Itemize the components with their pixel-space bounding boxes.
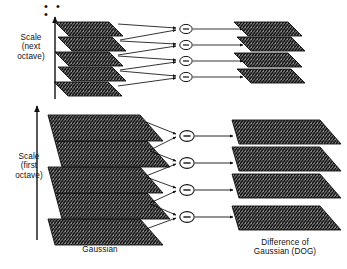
- subtract-node: [180, 185, 194, 196]
- gaussian-plate: [55, 193, 170, 219]
- first-octave-gaussian-stack: [48, 115, 170, 245]
- gaussian-plate: [58, 37, 126, 51]
- dog-plate: [232, 147, 341, 171]
- gaussian-plate: [58, 67, 126, 81]
- subtract-node: [180, 56, 192, 65]
- next-octave-dog-stack: [234, 22, 305, 83]
- gaussian-plate: [48, 219, 163, 245]
- dog-plate: [237, 37, 305, 51]
- subtract-node: [180, 24, 192, 33]
- next-octave-connector-arrows: [118, 24, 176, 86]
- dog-plate: [237, 69, 305, 83]
- next-octave-subtract-nodes: [180, 24, 192, 81]
- gaussian-plate: [55, 141, 170, 167]
- gaussian-plate: [48, 115, 163, 141]
- first-octave-dog-stack: [232, 120, 341, 230]
- scale-space-dog-figure: • • • Scale (next octave) Scale (first o…: [0, 0, 347, 269]
- gaussian-plate: [55, 22, 123, 36]
- diagram-canvas: [0, 0, 347, 269]
- dog-plate: [232, 120, 341, 144]
- dog-plate: [234, 53, 302, 67]
- dog-plate: [234, 22, 302, 36]
- gaussian-plate: [48, 167, 163, 193]
- first-octave-output-arrows: [195, 136, 233, 217]
- gaussian-plate: [54, 82, 122, 96]
- subtract-node: [180, 158, 194, 169]
- gaussian-plate: [55, 52, 123, 66]
- next-octave-gaussian-stack: [54, 22, 126, 96]
- subtract-node: [180, 40, 192, 49]
- dog-plate: [232, 174, 341, 198]
- first-octave-subtract-nodes: [180, 131, 194, 223]
- dog-plate: [232, 206, 341, 230]
- subtract-node: [180, 72, 192, 81]
- subtract-node: [180, 212, 194, 223]
- subtract-node: [180, 131, 194, 142]
